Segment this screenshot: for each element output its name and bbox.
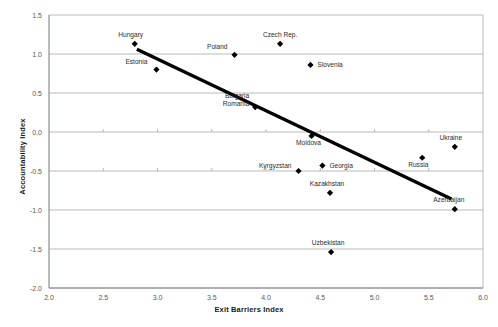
data-point-marker (327, 190, 333, 196)
data-point-label: Ukraine (439, 134, 462, 141)
gridlines (49, 15, 483, 288)
data-point-label: Kazakhstan (310, 180, 345, 187)
data-point-marker (452, 144, 458, 150)
x-tick-label: 4.0 (261, 294, 271, 301)
x-tick-label: 6.0 (478, 294, 488, 301)
data-point-label: Slovenia (317, 61, 343, 68)
y-tick-label: -1.5 (30, 246, 42, 253)
data-point-marker (132, 41, 138, 47)
data-point-label: Romania (223, 100, 250, 107)
x-tick-label: 3.5 (207, 294, 217, 301)
x-tick-label: 3.0 (153, 294, 163, 301)
data-point-label: Uzbekistan (312, 239, 345, 246)
trend-line (137, 49, 452, 199)
y-tick-label: -1.0 (30, 207, 42, 214)
data-point-label: Moldova (296, 139, 321, 146)
data-point-marker (231, 52, 237, 58)
data-point-label: Estonia (125, 58, 147, 65)
data-point-labels: HungaryEstoniaPolandCzech Rep.SloveniaBu… (118, 31, 464, 246)
data-point-marker (328, 249, 334, 255)
data-point-label: Bulgaria (225, 92, 250, 100)
data-point-marker (295, 168, 301, 174)
data-point-marker (319, 162, 325, 168)
x-tick-label: 2.5 (98, 294, 108, 301)
y-axis-tick-labels: 1.51.00.50.0-0.5-1.0-1.5-2.0 (30, 12, 42, 292)
data-point-label: Kyrgyzstan (259, 162, 292, 170)
scatter-chart: 1.51.00.50.0-0.5-1.0-1.5-2.0 2.02.53.03.… (0, 0, 498, 327)
data-point-marker (307, 62, 313, 68)
y-axis-title: Accountability Index (18, 92, 27, 222)
y-tick-label: 0.5 (32, 90, 42, 97)
data-point-label: Poland (207, 43, 228, 50)
x-tick-label: 5.5 (424, 294, 434, 301)
data-point-label: Hungary (118, 31, 144, 39)
y-tick-label: 1.5 (32, 12, 42, 19)
y-tick-label: 0.0 (32, 129, 42, 136)
trendline-segment (137, 49, 452, 199)
data-point-marker (277, 41, 283, 47)
data-point-label: Russia (408, 161, 428, 168)
x-tick-label: 5.0 (370, 294, 380, 301)
data-point-marker (153, 67, 159, 73)
data-point-label: Georgia (329, 162, 353, 170)
axis-lines (49, 15, 483, 288)
data-point-label: Azerbaijan (433, 196, 464, 204)
y-tick-label: -0.5 (30, 168, 42, 175)
plot-area: 1.51.00.50.0-0.5-1.0-1.5-2.0 2.02.53.03.… (0, 0, 498, 327)
x-axis-tick-labels: 2.02.53.03.54.04.55.05.56.0 (44, 294, 488, 301)
x-tick-label: 2.0 (44, 294, 54, 301)
y-tick-label: -2.0 (30, 285, 42, 292)
data-point-marker (452, 206, 458, 212)
x-axis-title: Exit Barriers Index (0, 305, 498, 314)
x-tick-label: 4.5 (315, 294, 325, 301)
data-point-label: Czech Rep. (263, 31, 298, 39)
y-tick-label: 1.0 (32, 51, 42, 58)
data-points (132, 41, 458, 255)
